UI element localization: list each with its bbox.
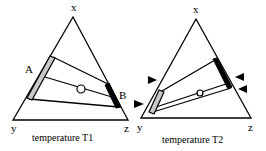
arrow-right-icon	[148, 76, 157, 84]
arrow-left-icon	[235, 73, 244, 81]
tie-line	[156, 83, 229, 107]
vertex-label-x: x	[193, 3, 199, 15]
tie-line	[53, 57, 108, 84]
vertex-label-z: z	[248, 121, 253, 133]
ternary-diagram-t1: x y z A B temperature T1	[11, 1, 129, 143]
composition-point	[77, 85, 85, 93]
phase-bar-right	[213, 58, 232, 89]
caption-t1: temperature T1	[32, 132, 93, 143]
tie-line	[153, 88, 231, 112]
tie-line	[29, 99, 119, 107]
vertex-label-z: z	[124, 122, 129, 134]
vertex-label-y: y	[11, 122, 17, 134]
ternary-diagram-t2: x y z temperature T2	[134, 3, 253, 145]
vertex-label-x: x	[71, 1, 77, 13]
vertex-label-y: y	[137, 121, 143, 133]
arrow-left-icon	[238, 85, 247, 93]
ternary-diagrams: x y z A B temperature T1 x y z temperatu…	[0, 0, 266, 151]
arrow-right-icon	[134, 100, 144, 108]
phase-label-a: A	[25, 63, 33, 75]
phase-label-b: B	[119, 89, 126, 101]
caption-t2: temperature T2	[162, 134, 223, 145]
composition-point	[197, 90, 203, 96]
